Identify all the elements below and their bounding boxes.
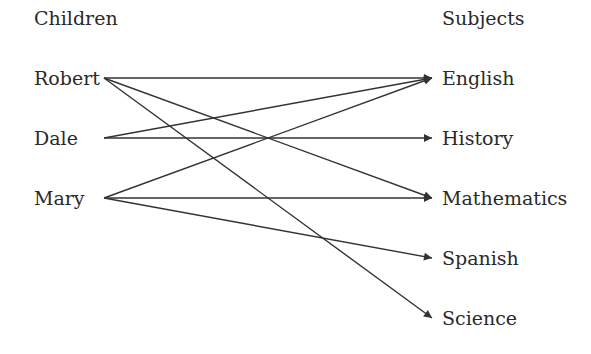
edge-layer [0, 0, 591, 354]
edge-mary-spanish [104, 198, 432, 258]
edge-dale-english [104, 78, 432, 138]
